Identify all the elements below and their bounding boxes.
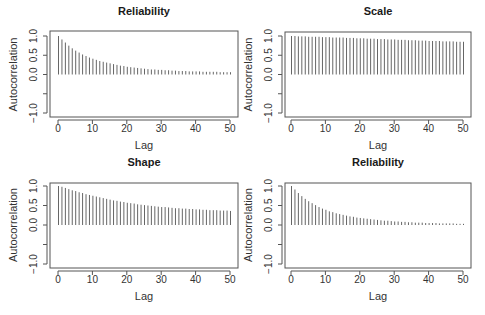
x-tick-label: 10 (87, 274, 99, 285)
x-tick-label: 40 (423, 123, 435, 134)
x-axis: 01020304050 (288, 120, 469, 134)
chart-title: Shape (127, 156, 160, 168)
y-tick-label: 1.0 (263, 179, 274, 193)
x-axis-label: Lag (369, 290, 387, 302)
acf-bars (59, 36, 231, 75)
x-tick-label: 20 (121, 274, 133, 285)
acf-panel-reliability: Reliability01020304050Lag−1.00.00.51.0Au… (7, 5, 238, 151)
acf-bars (292, 186, 464, 225)
y-tick-label: 0.5 (263, 198, 274, 212)
y-axis-label: Autocorrelation (242, 38, 254, 112)
x-tick-label: 0 (288, 274, 294, 285)
y-tick-label: 0.5 (28, 198, 39, 212)
y-tick-label: 0.5 (263, 48, 274, 62)
x-tick-label: 10 (320, 274, 332, 285)
x-axis: 01020304050 (55, 120, 236, 134)
y-axis: −1.00.00.51.0 (28, 179, 47, 274)
y-axis: −1.00.00.51.0 (263, 179, 282, 274)
y-tick-label: 1.0 (28, 179, 39, 193)
x-tick-label: 30 (156, 123, 168, 134)
y-tick-label: 1.0 (263, 29, 274, 43)
x-tick-label: 50 (457, 123, 469, 134)
chart-title: Scale (364, 5, 393, 17)
plot-frame (285, 183, 471, 268)
x-tick-label: 20 (121, 123, 133, 134)
x-tick-label: 40 (423, 274, 435, 285)
x-tick-label: 50 (224, 123, 236, 134)
y-axis: −1.00.00.51.0 (28, 29, 47, 123)
x-tick-label: 20 (354, 274, 366, 285)
acf-bars (59, 186, 231, 225)
x-tick-label: 50 (224, 274, 236, 285)
acf-panel-shape: Shape01020304050Lag−1.00.00.51.0Autocorr… (7, 156, 238, 302)
y-tick-label: 0.0 (263, 218, 274, 232)
y-tick-label: 0.0 (28, 67, 39, 81)
x-axis: 01020304050 (288, 271, 469, 285)
x-axis-label: Lag (369, 139, 387, 151)
y-axis-label: Autocorrelation (7, 188, 19, 262)
x-tick-label: 50 (457, 274, 469, 285)
acf-panel-reliability-2: Reliability01020304050Lag−1.00.00.51.0Au… (242, 156, 471, 302)
x-axis-label: Lag (135, 139, 153, 151)
x-tick-label: 0 (55, 274, 61, 285)
y-tick-label: −1.0 (28, 103, 39, 123)
y-tick-label: 0.0 (28, 218, 39, 232)
x-tick-label: 30 (156, 274, 168, 285)
x-tick-label: 10 (320, 123, 332, 134)
x-tick-label: 0 (55, 123, 61, 134)
y-axis-label: Autocorrelation (242, 188, 254, 262)
x-tick-label: 20 (354, 123, 366, 134)
y-tick-label: 0.5 (28, 48, 39, 62)
y-axis: −1.00.00.51.0 (263, 29, 282, 123)
x-tick-label: 0 (288, 123, 294, 134)
chart-title: Reliability (352, 156, 405, 168)
x-tick-label: 10 (87, 123, 99, 134)
y-tick-label: −1.0 (263, 254, 274, 274)
x-tick-label: 30 (389, 123, 401, 134)
y-axis-label: Autocorrelation (7, 38, 19, 112)
x-tick-label: 40 (190, 123, 202, 134)
y-tick-label: 0.0 (263, 67, 274, 81)
acf-figure: Reliability01020304050Lag−1.00.00.51.0Au… (0, 0, 485, 315)
x-tick-label: 40 (190, 274, 202, 285)
acf-bars (292, 36, 464, 75)
y-tick-label: −1.0 (263, 103, 274, 123)
x-tick-label: 30 (389, 274, 401, 285)
plot-frame (50, 183, 238, 268)
chart-title: Reliability (118, 5, 171, 17)
y-tick-label: −1.0 (28, 254, 39, 274)
x-axis-label: Lag (135, 290, 153, 302)
y-tick-label: 1.0 (28, 29, 39, 43)
acf-panel-scale: Scale01020304050Lag−1.00.00.51.0Autocorr… (242, 5, 471, 151)
x-axis: 01020304050 (55, 271, 236, 285)
